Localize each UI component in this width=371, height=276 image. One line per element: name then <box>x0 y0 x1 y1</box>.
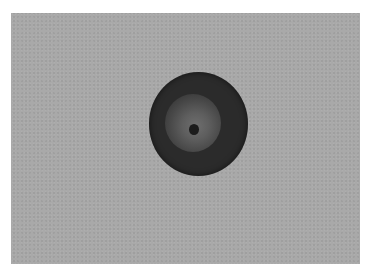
light-halo <box>165 94 221 152</box>
center-dot <box>189 124 199 135</box>
dark-circular-object <box>149 72 248 176</box>
